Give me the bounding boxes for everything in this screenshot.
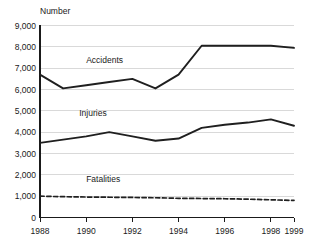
- x-tick-label: 1996: [215, 226, 234, 236]
- y-tick-label: 3,000: [15, 149, 37, 159]
- x-tick-label: 1998: [261, 226, 280, 236]
- series-line-injuries: [40, 119, 294, 142]
- y-tick-label: 9,000: [15, 21, 37, 31]
- series-line-fatalities: [40, 196, 294, 200]
- x-tick-label: 1990: [77, 226, 96, 236]
- y-tick-label: 8,000: [15, 42, 37, 52]
- x-tick-label: 1994: [169, 226, 188, 236]
- series-line-accidents: [40, 46, 294, 89]
- y-tick-label: 7,000: [15, 63, 37, 73]
- y-tick-label: 2,000: [15, 170, 37, 180]
- y-axis-title: Number: [40, 6, 70, 16]
- y-tick-label: 4,000: [15, 127, 37, 137]
- line-chart: Number01,0002,0003,0004,0005,0006,0007,0…: [0, 0, 309, 252]
- y-tick-label: 6,000: [15, 85, 37, 95]
- y-tick-label: 5,000: [15, 106, 37, 116]
- y-tick-label: 1,000: [15, 191, 37, 201]
- x-tick-label: 1992: [123, 226, 142, 236]
- x-tick-label: 1988: [31, 226, 50, 236]
- series-label-injuries: Injuries: [79, 108, 106, 118]
- x-tick-label: 1999: [285, 226, 304, 236]
- series-label-fatalities: Fatalities: [86, 174, 120, 184]
- y-tick-label: 0: [31, 213, 36, 223]
- series-label-accidents: Accidents: [86, 55, 123, 65]
- chart-canvas: Number01,0002,0003,0004,0005,0006,0007,0…: [0, 0, 309, 252]
